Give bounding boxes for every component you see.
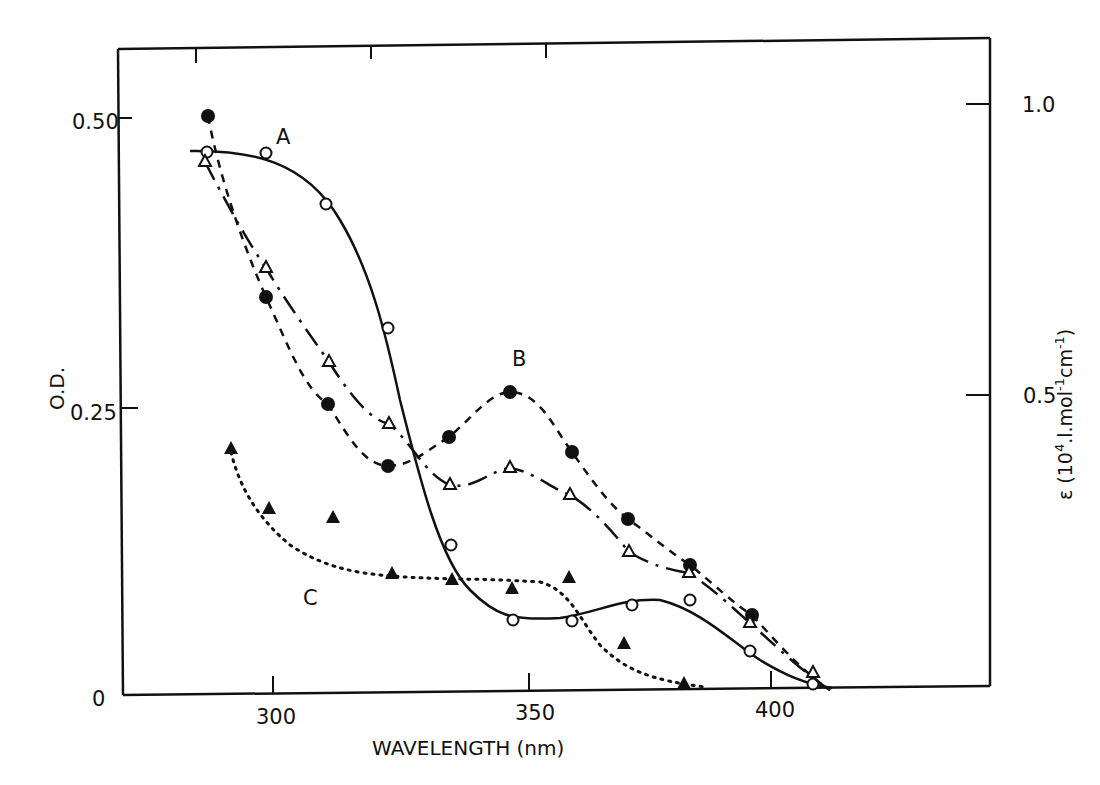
y-axis-title: O.D.: [45, 367, 69, 410]
curve-b-markers: [201, 109, 759, 622]
bottom-axis-line: [123, 686, 990, 695]
y-tick-0: 0: [92, 687, 105, 711]
x-tick-300: 300: [256, 705, 296, 729]
curve-label-b: B: [512, 347, 526, 371]
curve-a-line: [190, 151, 832, 688]
absorption-spectrum-chart: 0.50 0.25 0 300 350 400 1.0 0.5 WAVELENG…: [0, 0, 1100, 785]
y2-axis-title: ε (104.l.mol-1cm-1): [1052, 329, 1076, 500]
left-axis-line: [118, 49, 123, 695]
y-tick-025: 0.25: [70, 401, 117, 425]
curve-triangle-line: [205, 162, 830, 690]
y2-tick-10: 1.0: [1022, 93, 1055, 117]
curve-triangle-markers: [199, 155, 819, 677]
curve-c-line: [231, 452, 705, 687]
svg-text:ε (104.l.mol-1cm-1): ε (104.l.mol-1cm-1): [1052, 329, 1076, 500]
x-tick-400: 400: [755, 698, 795, 722]
curve-label-c: C: [303, 586, 318, 610]
plot-frame: [118, 38, 990, 695]
curve-a-markers: [202, 147, 819, 690]
curve-c-markers: [224, 441, 691, 689]
ticks: [119, 44, 990, 694]
curve-b-line: [208, 116, 830, 690]
curve-label-a: A: [276, 125, 291, 149]
y-tick-050: 0.50: [72, 110, 119, 134]
x-tick-350: 350: [515, 701, 555, 725]
top-axis-line: [118, 38, 990, 49]
x-axis-title: WAVELENGTH (nm): [372, 736, 564, 760]
